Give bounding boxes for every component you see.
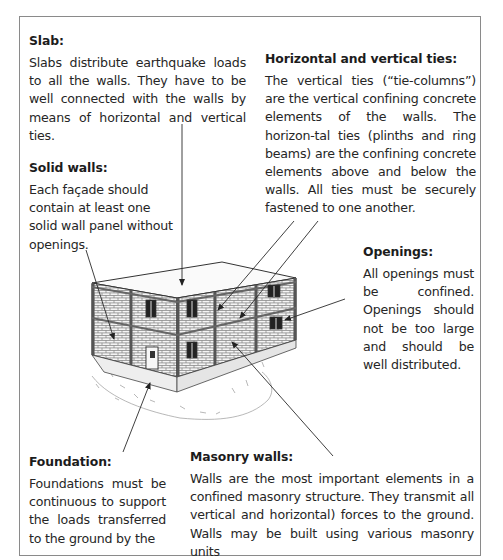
label-solid-walls: Solid walls: Each façade should contain …: [29, 160, 179, 254]
label-foundation: Foundation: Foundations must be continuo…: [29, 454, 166, 548]
label-text: The vertical ties (“tie-columns”) are th…: [265, 72, 476, 218]
label-masonry-walls: Masonry walls: Walls are the most import…: [190, 449, 474, 560]
label-title: Horizontal and vertical ties:: [265, 51, 476, 67]
label-ties: Horizontal and vertical ties: The vertic…: [265, 51, 476, 218]
label-text: All openings must be confined. Openings …: [363, 265, 474, 374]
label-text: Foundations must be continuous to suppor…: [29, 475, 166, 548]
label-text: Each façade should contain at least one …: [29, 181, 179, 254]
label-title: Solid walls:: [29, 160, 179, 176]
label-title: Foundation:: [29, 454, 166, 470]
label-title: Slab:: [29, 33, 246, 49]
label-openings: Openings: All openings must be confined.…: [363, 244, 474, 374]
label-title: Masonry walls:: [190, 449, 474, 465]
label-text: Walls are the most important elements in…: [190, 470, 474, 560]
label-slab: Slab: Slabs distribute earthquake loads …: [29, 33, 246, 145]
label-title: Openings:: [363, 244, 474, 260]
label-text: Slabs distribute earthquake loads to all…: [29, 54, 246, 145]
